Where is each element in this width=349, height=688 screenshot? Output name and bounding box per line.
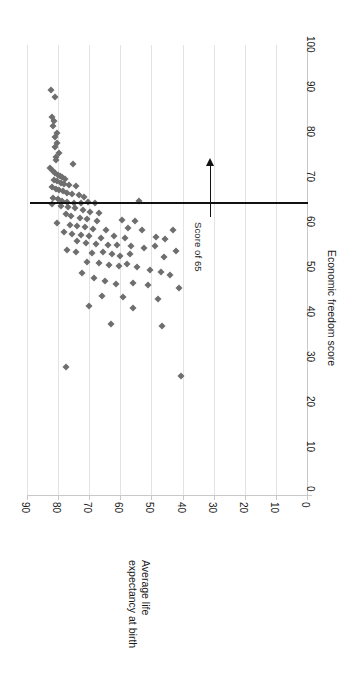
scatter-point	[128, 243, 135, 250]
life-tick-label-20: 20	[238, 502, 249, 513]
scatter-point	[86, 233, 93, 240]
scatter-point	[79, 269, 86, 276]
scatter-point	[120, 293, 127, 300]
scatter-point	[123, 260, 130, 267]
scatter-point	[62, 363, 69, 370]
scatter-point	[77, 231, 84, 238]
tick-life-40	[183, 495, 184, 500]
scatter-point	[102, 226, 109, 233]
scatter-point	[122, 234, 129, 241]
life-tick-label-50: 50	[144, 502, 155, 513]
scatter-point	[71, 205, 78, 212]
annotation-arrow-shaft	[210, 160, 211, 217]
tick-life-20	[245, 495, 246, 500]
scatter-point	[170, 227, 177, 234]
gridline-life-70	[89, 45, 90, 495]
score-tick-label-0: 0	[305, 486, 316, 492]
life-tick-label-0: 0	[300, 502, 311, 508]
scatter-point	[167, 271, 174, 278]
scatter-point	[81, 224, 88, 231]
scatter-point	[162, 235, 169, 242]
scatter-point	[73, 222, 80, 229]
scatter-point	[60, 229, 67, 236]
scatter-point	[130, 305, 137, 312]
scatter-point	[160, 253, 167, 260]
scatter-point	[97, 234, 104, 241]
scatter-point	[111, 232, 118, 239]
scatter-plot-figure: Score of 65 0102030405060708090100 90807…	[0, 0, 349, 688]
annotation-label-score-of-65: Score of 65	[193, 222, 204, 272]
scatter-point	[73, 183, 80, 190]
life-title-line-2: expectancy at birth	[126, 560, 139, 648]
life-expectancy-axis-line	[27, 495, 308, 496]
scatter-point	[74, 238, 81, 245]
scatter-point	[157, 268, 164, 275]
scatter-point	[98, 293, 105, 300]
life-tick-label-80: 80	[51, 502, 62, 513]
scatter-point	[72, 248, 79, 255]
life-expectancy-axis-title: Average life expectancy at birth	[126, 560, 152, 648]
plot-area	[27, 45, 307, 495]
scatter-point	[126, 250, 133, 257]
life-tick-label-30: 30	[207, 502, 218, 513]
scatter-point	[139, 226, 146, 233]
score-tick-label-70: 70	[305, 171, 316, 182]
tick-life-60	[120, 495, 121, 500]
scatter-point	[87, 208, 94, 215]
life-tick-label-70: 70	[82, 502, 93, 513]
score-tick-label-80: 80	[305, 126, 316, 137]
gridline-life-30	[214, 45, 215, 495]
scatter-point	[159, 323, 166, 330]
life-tick-label-10: 10	[269, 502, 280, 513]
scatter-point	[47, 86, 54, 93]
tick-life-50	[151, 495, 152, 500]
gridline-life-20	[245, 45, 246, 495]
gridline-life-40	[183, 45, 184, 495]
scatter-point	[117, 252, 124, 259]
scatter-point	[102, 277, 109, 284]
life-title-line-1: Average life	[139, 560, 152, 648]
scatter-point	[50, 122, 57, 129]
scatter-point	[69, 230, 76, 237]
life-tick-label-40: 40	[176, 502, 187, 513]
life-tick-label-90: 90	[20, 502, 31, 513]
tick-life-10	[276, 495, 277, 500]
scatter-point	[112, 280, 119, 287]
scatter-point	[140, 244, 147, 251]
scatter-point	[91, 275, 98, 282]
score-tick-label-30: 30	[305, 351, 316, 362]
score-tick-label-20: 20	[305, 396, 316, 407]
scatter-point	[89, 225, 96, 232]
scatter-point	[106, 261, 113, 268]
tick-life-30	[214, 495, 215, 500]
scatter-point	[66, 221, 73, 228]
life-tick-label-60: 60	[113, 502, 124, 513]
tick-life-90	[27, 495, 28, 500]
economic-freedom-axis-title: Economic freedom score	[326, 250, 338, 366]
scatter-point	[104, 242, 111, 249]
scatter-point	[108, 251, 115, 258]
gridline-life-80	[58, 45, 59, 495]
score-tick-label-90: 90	[305, 81, 316, 92]
scatter-point	[96, 209, 103, 216]
scatter-point	[79, 206, 86, 213]
score-tick-label-40: 40	[305, 306, 316, 317]
gridline-life-90	[27, 45, 28, 495]
scatter-point	[100, 248, 107, 255]
tick-life-0	[307, 495, 308, 500]
tick-life-70	[89, 495, 90, 500]
scatter-point	[89, 249, 96, 256]
scatter-point	[70, 160, 77, 167]
annotation-arrow-head-icon	[206, 158, 214, 166]
scatter-point	[93, 217, 100, 224]
scatter-point	[132, 217, 139, 224]
gridline-life-60	[120, 45, 121, 495]
scatter-point	[125, 224, 132, 231]
scatter-point	[63, 247, 70, 254]
scatter-point	[68, 190, 75, 197]
scatter-point	[134, 264, 141, 271]
scatter-point	[65, 181, 72, 188]
tick-life-80	[58, 495, 59, 500]
score-tick-label-100: 100	[305, 36, 316, 53]
scatter-point	[154, 295, 161, 302]
